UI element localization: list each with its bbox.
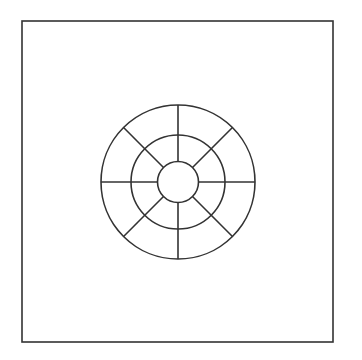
spoke-225deg bbox=[124, 197, 164, 237]
wheel-diagram bbox=[0, 0, 362, 360]
frame-border bbox=[22, 21, 333, 342]
spoke-135deg bbox=[124, 128, 164, 168]
spoke-45deg bbox=[193, 128, 233, 168]
spoke-315deg bbox=[193, 197, 233, 237]
inner-ring bbox=[158, 162, 199, 203]
